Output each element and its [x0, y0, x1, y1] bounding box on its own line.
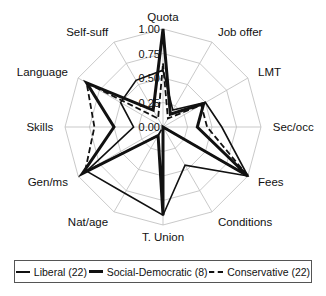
tick-label: 0.00: [139, 121, 160, 133]
tick-label: 1.00: [139, 23, 160, 35]
legend-label: Liberal (22): [34, 266, 87, 278]
tick-label: 0.75: [139, 48, 160, 60]
axis-label: LMT: [258, 66, 281, 78]
axis-label: Gen/ms: [28, 176, 69, 188]
axis-label: Quota: [147, 11, 179, 23]
legend-label: Social-Democratic (8): [107, 266, 208, 278]
axis-label: Nat/age: [68, 216, 108, 228]
radar-chart: 0.000.250.500.751.00QuotaJob offerLMTSec…: [0, 0, 326, 296]
legend-label: Conservative (22): [227, 266, 310, 278]
axis-spoke: [114, 127, 163, 212]
thick-line-swatch-icon: [89, 270, 103, 273]
legend-item-liberal: Liberal (22): [16, 266, 87, 278]
tick-label: 0.50: [139, 72, 160, 84]
axis-label: T. Union: [142, 231, 184, 243]
axis-label: Sec/occ: [273, 121, 314, 133]
dashed-line-swatch-icon: [209, 271, 223, 273]
axis-label: Language: [17, 66, 68, 78]
legend-item-social-democratic: Social-Democratic (8): [89, 266, 208, 278]
series-social-democratic: [82, 29, 247, 215]
axis-label: Self-suff: [66, 26, 109, 38]
thin-line-swatch-icon: [16, 271, 30, 273]
tick-label: 0.25: [139, 97, 160, 109]
legend-item-conservative: Conservative (22): [209, 266, 310, 278]
axis-label: Skills: [26, 121, 53, 133]
axis-label: Job offer: [218, 26, 263, 38]
axis-label: Fees: [258, 176, 284, 188]
chart-legend: Liberal (22) Social-Democratic (8) Conse…: [14, 260, 312, 283]
axis-label: Conditions: [218, 216, 273, 228]
